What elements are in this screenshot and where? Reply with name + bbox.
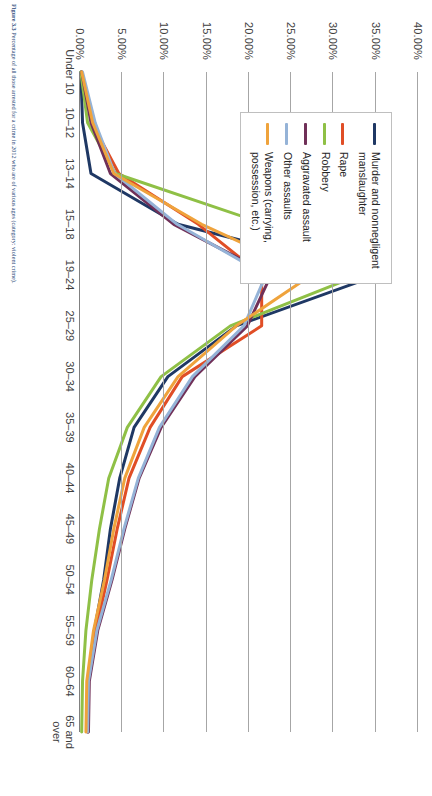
legend-item-2[interactable]: Robbery [319, 123, 332, 273]
legend-item-label: Murder and nonnegligent manslaughter [356, 152, 382, 273]
gridline [121, 72, 122, 732]
x-axis-tick-label: 15–18 [63, 196, 76, 252]
legend-color-swatch [304, 123, 307, 145]
figure-stage: 0.00%5.00%10.00%15.00%20.00%25.00%30.00%… [0, 0, 432, 796]
x-axis-line [79, 72, 80, 732]
x-axis-tick-label: 13–14 [63, 146, 76, 202]
y-axis-tick-label: 20.00% [243, 22, 255, 60]
x-axis-tick-label: 60–64 [63, 653, 76, 709]
figure-caption: Figure 3.3 Percentage of all those arres… [10, 4, 18, 792]
legend-item-label: Other assaults [281, 152, 294, 220]
y-axis-tick-label: 5.00% [116, 28, 128, 60]
legend-color-swatch [266, 123, 269, 145]
legend: Murder and nonnegligent manslaughterRape… [240, 112, 392, 284]
legend-item-label: Robbery [319, 152, 332, 192]
legend-item-1[interactable]: Rape [338, 123, 351, 273]
x-axis-tick-label: 30–34 [63, 349, 76, 405]
legend-item-label: Rape [338, 152, 351, 177]
y-axis-tick-label: 25.00% [285, 22, 297, 60]
x-axis-tick-label: 10–12 [63, 95, 76, 151]
y-axis-tick-label: 35.00% [370, 22, 382, 60]
legend-color-swatch [285, 123, 288, 145]
y-axis-tick-label: 30.00% [328, 22, 340, 60]
gridline [164, 72, 165, 732]
x-axis-tick-label: 65 andover [50, 704, 76, 760]
x-axis-tick-label: 40–44 [63, 450, 76, 506]
x-axis-tick-label: 55–59 [63, 602, 76, 658]
y-axis-tick-label: 10.00% [159, 22, 171, 60]
y-axis-tick-label: 40.00% [412, 22, 424, 60]
gridline [206, 72, 207, 732]
x-axis-tick-label: 45–49 [63, 501, 76, 557]
caption-text: Percentage of all those arrested for a c… [11, 32, 18, 283]
legend-item-3[interactable]: Aggravated assault [300, 123, 313, 273]
x-axis-labels: Under 1010–1213–1415–1819–2425–2930–3435… [16, 72, 76, 732]
x-axis-tick-label: Under 10 [63, 44, 76, 100]
y-axis-tick-label: 15.00% [201, 22, 213, 60]
x-axis-tick-label: 50–54 [63, 552, 76, 608]
legend-color-swatch [341, 123, 344, 145]
legend-color-swatch [323, 123, 326, 145]
line-chart-figure: 0.00%5.00%10.00%15.00%20.00%25.00%30.00%… [0, 0, 432, 796]
legend-item-label: Weapons (carrying, possession, etc.) [250, 152, 276, 273]
legend-color-swatch [373, 123, 376, 145]
x-axis-tick-label: 25–29 [63, 298, 76, 354]
gridline [417, 72, 418, 732]
y-axis-labels: 0.00%5.00%10.00%15.00%20.00%25.00%30.00%… [80, 0, 418, 66]
x-axis-tick-label: 19–24 [63, 247, 76, 303]
legend-item-5[interactable]: Weapons (carrying, possession, etc.) [250, 123, 276, 273]
caption-label: Figure 3.3 [11, 4, 18, 31]
legend-item-0[interactable]: Murder and nonnegligent manslaughter [356, 123, 382, 273]
rotated-figure-wrapper: 0.00%5.00%10.00%15.00%20.00%25.00%30.00%… [0, 0, 432, 796]
x-axis-tick-label: 35–39 [63, 399, 76, 455]
legend-item-label: Aggravated assault [300, 152, 313, 242]
legend-item-4[interactable]: Other assaults [281, 123, 294, 273]
